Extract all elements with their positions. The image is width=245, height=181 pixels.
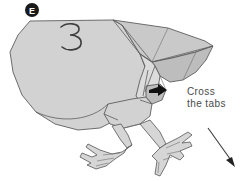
annotation-line-1: Cross — [187, 86, 215, 97]
step-badge: E — [25, 3, 39, 17]
annotation-line-2: the tabs — [187, 98, 226, 109]
paper-panel-tab-right — [146, 84, 166, 104]
papercraft-instruction-figure: 3 E Cross the tabs — [0, 0, 245, 181]
step-badge-label: E — [29, 6, 35, 16]
paper-leg-left — [112, 124, 132, 148]
paper-leg-right — [140, 120, 166, 148]
paper-foot-left — [80, 144, 132, 169]
annotation-cross-the-tabs: Cross the tabs — [187, 86, 226, 109]
folded-paper-body — [10, 20, 213, 130]
diagonal-arrow-icon — [208, 128, 235, 167]
